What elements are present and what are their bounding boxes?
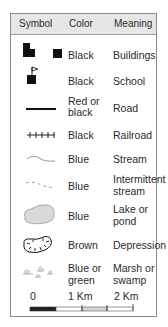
header-symbol: Symbol xyxy=(19,18,52,29)
legend-row-marsh: Blue or green Marsh or swamp xyxy=(11,260,156,288)
legend-header: Symbol Color Meaning xyxy=(11,14,156,35)
legend-row-railroad: Black Railroad xyxy=(11,126,156,144)
legend-row-road: Red or black Road xyxy=(11,94,156,120)
color-label: Blue xyxy=(68,153,89,165)
color-label: Blue or xyxy=(68,262,101,274)
meaning-label: Marsh or xyxy=(113,262,154,274)
legend-row-lake: Blue Lake or pond xyxy=(11,201,156,229)
map-legend: Symbol Color Meaning Black Buildings Bla… xyxy=(10,13,157,317)
meaning-label: Depression xyxy=(113,239,166,251)
scale-bar-graphic xyxy=(11,302,156,316)
scale-label-1km: 1 Km xyxy=(68,290,93,302)
color-label: Brown xyxy=(68,239,98,251)
legend-row-depression: Brown Depression xyxy=(11,232,156,258)
lake-icon xyxy=(11,201,67,229)
scale-label-0: 0 xyxy=(30,290,36,302)
meaning-label: Road xyxy=(113,102,138,114)
meaning-label: School xyxy=(113,75,145,87)
meaning-label: Railroad xyxy=(113,129,152,141)
color-label-line2: green xyxy=(68,274,95,286)
header-color: Color xyxy=(69,18,93,29)
school-icon xyxy=(11,64,67,88)
color-label: Blue xyxy=(68,210,89,222)
stream-icon xyxy=(11,149,67,169)
road-icon xyxy=(11,94,67,120)
meaning-label: Lake or xyxy=(113,203,148,215)
marsh-icon xyxy=(11,260,67,288)
color-label-line2: black xyxy=(68,106,93,118)
buildings-icon xyxy=(11,42,67,62)
railroad-icon xyxy=(11,126,67,144)
meaning-label-line2: pond xyxy=(113,215,136,227)
color-label: Black xyxy=(68,49,94,61)
meaning-label: Buildings xyxy=(113,49,156,61)
legend-row-intermittent-stream: Blue Intermittent stream xyxy=(11,172,156,198)
legend-row-buildings: Black Buildings xyxy=(11,42,156,62)
header-meaning: Meaning xyxy=(114,18,152,29)
legend-row-school: Black School xyxy=(11,64,156,88)
scale-label-2km: 2 Km xyxy=(114,290,139,302)
intermittent-stream-icon xyxy=(11,172,67,198)
color-label: Blue xyxy=(68,180,89,192)
scale-bar: 0 1 Km 2 Km xyxy=(11,290,156,316)
legend-row-stream: Blue Stream xyxy=(11,149,156,169)
meaning-label-line2: swamp xyxy=(113,274,146,286)
meaning-label: Intermittent xyxy=(113,173,166,185)
meaning-label-line2: stream xyxy=(113,185,145,197)
meaning-label: Stream xyxy=(113,153,147,165)
color-label: Black xyxy=(68,129,94,141)
depression-icon xyxy=(11,232,67,258)
color-label: Black xyxy=(68,75,94,87)
